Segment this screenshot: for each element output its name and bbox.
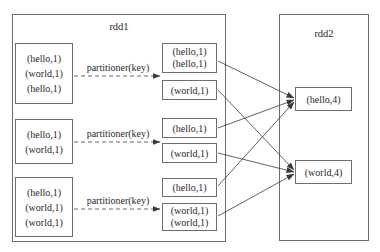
shuffle-arrow — [218, 100, 294, 128]
shuffle-arrow — [218, 153, 294, 172]
shuffle-arrow — [218, 102, 294, 186]
shuffle-arrow — [218, 90, 294, 170]
shuffle-arrow — [218, 174, 294, 216]
shuffle-arrow — [218, 61, 294, 98]
arrows-layer — [0, 0, 380, 252]
